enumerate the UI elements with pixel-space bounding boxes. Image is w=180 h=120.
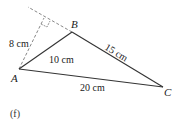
extension-line	[28, 7, 72, 32]
height-length-label: 8 cm	[9, 38, 29, 49]
side-bc	[72, 32, 163, 87]
vertex-b-label: B	[71, 18, 78, 30]
figure-caption: (f)	[10, 108, 20, 120]
vertex-a-label: A	[10, 72, 18, 84]
vertex-c-label: C	[164, 86, 172, 98]
triangle-diagram: A B C 8 cm 10 cm 15 cm 20 cm (f)	[0, 0, 180, 120]
side-ab-length-label: 10 cm	[49, 54, 74, 65]
side-bc-length-label: 15 cm	[103, 41, 130, 63]
side-ac-length-label: 20 cm	[80, 82, 105, 93]
